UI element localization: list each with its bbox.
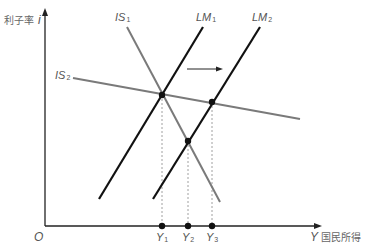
point-e3 — [209, 99, 215, 105]
lm1-label-main: LM — [196, 11, 211, 23]
lm2-label: LM2 — [252, 12, 272, 23]
y-axis-arrow-icon — [42, 8, 48, 16]
lm1-curve — [99, 27, 203, 199]
tick-y1-dot — [159, 223, 165, 229]
diagram-canvas — [0, 0, 368, 249]
x-axis-arrow-icon — [314, 223, 322, 229]
point-e1 — [159, 92, 165, 98]
origin-label: O — [34, 231, 43, 243]
is2-label-main: IS — [55, 69, 65, 81]
y-axis-label: 利子率 i — [4, 14, 41, 26]
is2-curve — [73, 78, 300, 119]
point-e2 — [185, 138, 191, 144]
x-axis-label: Y 国民所得 — [310, 231, 361, 243]
is1-label-main: IS — [115, 11, 125, 23]
y3-label-main: Y — [206, 231, 213, 243]
lm1-label: LM1 — [196, 12, 216, 23]
y-axis-symbol: i — [38, 13, 41, 27]
is2-label-sub: 2 — [66, 74, 70, 81]
lm-curves — [99, 27, 260, 199]
lm2-label-main: LM — [252, 11, 267, 23]
x-axis-label-text: 国民所得 — [321, 232, 361, 243]
y1-label-main: Y — [156, 231, 163, 243]
y3-label-sub: 3 — [214, 236, 218, 243]
y2-label-sub: 2 — [190, 236, 194, 243]
is1-label-sub: 1 — [126, 16, 130, 23]
lm1-label-sub: 1 — [212, 16, 216, 23]
y2-label: Y2 — [182, 232, 194, 243]
lm2-curve — [153, 27, 260, 199]
islm-diagram: 利子率 i IS1 LM1 LM2 IS2 O Y1 Y2 Y3 Y 国民所得 — [0, 0, 368, 249]
y1-label: Y1 — [156, 232, 168, 243]
tick-y2-dot — [185, 223, 191, 229]
is1-label: IS1 — [115, 12, 130, 23]
y-axis-label-text: 利子率 — [4, 15, 34, 26]
y1-label-sub: 1 — [164, 236, 168, 243]
x-axis-symbol: Y — [310, 230, 318, 244]
axes — [42, 8, 322, 229]
y3-label: Y3 — [206, 232, 218, 243]
shift-arrow-icon — [187, 67, 223, 72]
y2-label-main: Y — [182, 231, 189, 243]
lm2-label-sub: 2 — [268, 16, 272, 23]
is2-label: IS2 — [55, 70, 70, 81]
tick-y3-dot — [209, 223, 215, 229]
